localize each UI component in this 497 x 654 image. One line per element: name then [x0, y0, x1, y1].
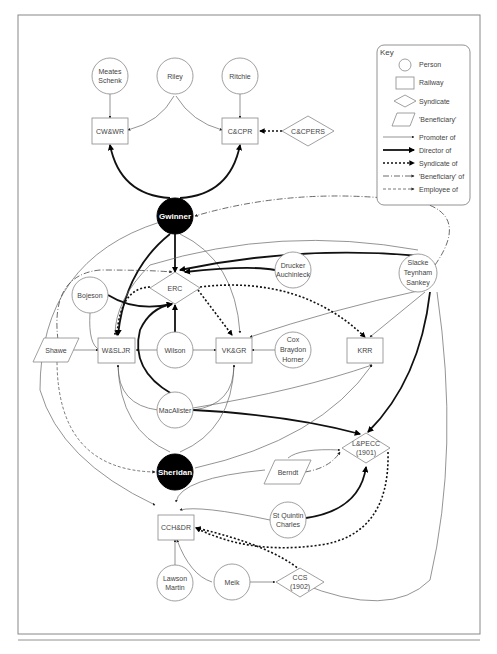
- nodes: Meates Schenk Riley Ritchie CW&WR C&CPR …: [33, 58, 437, 601]
- node-erc[interactable]: ERC: [150, 272, 200, 304]
- edge-gwinner-ccpr: [180, 145, 240, 198]
- node-label: Bojeson: [77, 292, 102, 300]
- node-label: (1901): [356, 449, 376, 457]
- node-shawe[interactable]: Shawe: [33, 338, 79, 362]
- node-ccs-1902[interactable]: CCS (1902): [276, 568, 324, 597]
- node-ccpers[interactable]: C&CPERS: [282, 116, 334, 146]
- node-krr[interactable]: KRR: [347, 338, 383, 363]
- legend-title: Key: [380, 48, 394, 57]
- node-label: Sheridan: [158, 468, 192, 477]
- node-label: Martin: [165, 584, 185, 591]
- node-ccpr[interactable]: C&CPR: [222, 118, 258, 144]
- legend-label: Syndicate of: [419, 160, 458, 168]
- node-sheridan[interactable]: Sheridan: [157, 454, 193, 490]
- edge-erc-krr: [200, 285, 365, 337]
- legend-label: 'Beneficiary': [419, 116, 456, 124]
- edge-macalister-vkgr: [193, 365, 234, 410]
- node-label: Shawe: [45, 347, 67, 354]
- node-label: Schenk: [98, 77, 122, 84]
- node-slacke-teynham-sankey[interactable]: Slacke Teynham Sankey: [399, 254, 437, 292]
- node-label: Sankey: [406, 279, 430, 287]
- edge-berndt-lpecc2: [288, 450, 340, 458]
- edge-slacke-krr: [370, 292, 425, 337]
- node-meates-schenk[interactable]: Meates Schenk: [92, 58, 128, 94]
- node-label: Lawson: [163, 575, 187, 582]
- node-label: MacAlister: [159, 407, 192, 414]
- node-label: C&CPR: [228, 128, 253, 135]
- node-label: Gwinner: [159, 212, 191, 221]
- node-cchdr[interactable]: CCH&DR: [158, 515, 194, 540]
- edge-macalister-wsljr: [118, 365, 158, 410]
- legend: Key Person Railway Syndicate 'Beneficiar…: [377, 45, 470, 205]
- node-label: St Quintin: [273, 512, 304, 520]
- legend-label: Promoter of: [419, 134, 456, 141]
- node-ritchie[interactable]: Ritchie: [222, 58, 258, 94]
- node-label: C&CPERS: [291, 128, 325, 135]
- node-label: CCH&DR: [161, 524, 191, 531]
- node-label: VK&GR: [222, 347, 247, 354]
- node-label: Riley: [167, 73, 183, 81]
- rectangle-icon: [396, 77, 414, 89]
- node-drucker-auchinleck[interactable]: Drucker Auchinleck: [275, 252, 311, 288]
- node-gwinner[interactable]: Gwinner: [157, 198, 193, 234]
- legend-label: Railway: [419, 79, 444, 87]
- node-riley[interactable]: Riley: [157, 58, 193, 94]
- node-label: Teynham: [404, 269, 433, 277]
- edge-sheridan-krr: [195, 365, 372, 468]
- node-label: Berndt: [278, 469, 299, 476]
- legend-label: Director of: [419, 147, 451, 154]
- edge-stquintin-lpecc: [306, 467, 366, 518]
- node-label: ERC: [168, 285, 183, 292]
- node-label: L&PECC: [352, 440, 380, 447]
- node-label: Drucker: [281, 262, 306, 269]
- legend-label: Employee of: [419, 186, 458, 194]
- node-label: Slacke: [407, 259, 428, 266]
- node-st-quintin-charles[interactable]: St Quintin Charles: [270, 502, 306, 538]
- node-macalister[interactable]: MacAlister: [157, 392, 193, 428]
- node-label: Meates: [99, 68, 122, 75]
- node-label: KRR: [358, 347, 373, 354]
- node-label: Charles: [276, 521, 301, 528]
- edge-shawe-erc: [57, 270, 172, 340]
- node-cwwr[interactable]: CW&WR: [92, 118, 128, 144]
- node-wilson[interactable]: Wilson: [157, 332, 193, 368]
- edge-shawe-sheridan: [57, 362, 155, 472]
- node-bojeson[interactable]: Bojeson: [72, 277, 108, 313]
- circle-icon: [399, 59, 411, 71]
- node-label: Cox: [287, 336, 300, 343]
- node-label: Auchinleck: [276, 271, 310, 278]
- legend-label: 'Beneficiary' of: [419, 173, 464, 181]
- node-label: (1902): [290, 583, 310, 591]
- legend-label: Person: [419, 61, 441, 68]
- edge-riley-cwwr: [128, 96, 174, 130]
- node-wsljr[interactable]: W&SLJR: [98, 338, 135, 363]
- edge-bojeson-erc: [108, 295, 172, 307]
- network-diagram: Meates Schenk Riley Ritchie CW&WR C&CPR …: [0, 0, 497, 654]
- node-vkgr[interactable]: VK&GR: [216, 338, 252, 363]
- node-label: CW&WR: [96, 128, 124, 135]
- node-label: Ritchie: [229, 73, 251, 80]
- edge-riley-ccpr: [176, 96, 222, 130]
- edge-erc-wsljr: [117, 287, 150, 335]
- edge-erc-vkgr: [198, 290, 232, 335]
- edge-gwinner-cwwr: [110, 145, 170, 198]
- node-label: W&SLJR: [102, 347, 130, 354]
- node-label: Wilson: [164, 347, 185, 354]
- edge-macalister-krr: [193, 365, 372, 408]
- node-label: Horner: [282, 356, 304, 363]
- node-berndt[interactable]: Berndt: [264, 460, 311, 484]
- edge-drucker-erc: [185, 268, 275, 272]
- node-meik[interactable]: Meik: [214, 564, 250, 600]
- node-label: Meik: [225, 579, 240, 586]
- node-label: CCS: [293, 574, 308, 581]
- legend-label: Syndicate: [419, 98, 450, 106]
- node-label: Braydon: [280, 346, 306, 354]
- node-lpecc-1901[interactable]: L&PECC (1901): [342, 433, 390, 463]
- node-lawson-martin[interactable]: Lawson Martin: [157, 565, 193, 601]
- node-cox-braydon-horner[interactable]: Cox Braydon Horner: [275, 332, 311, 368]
